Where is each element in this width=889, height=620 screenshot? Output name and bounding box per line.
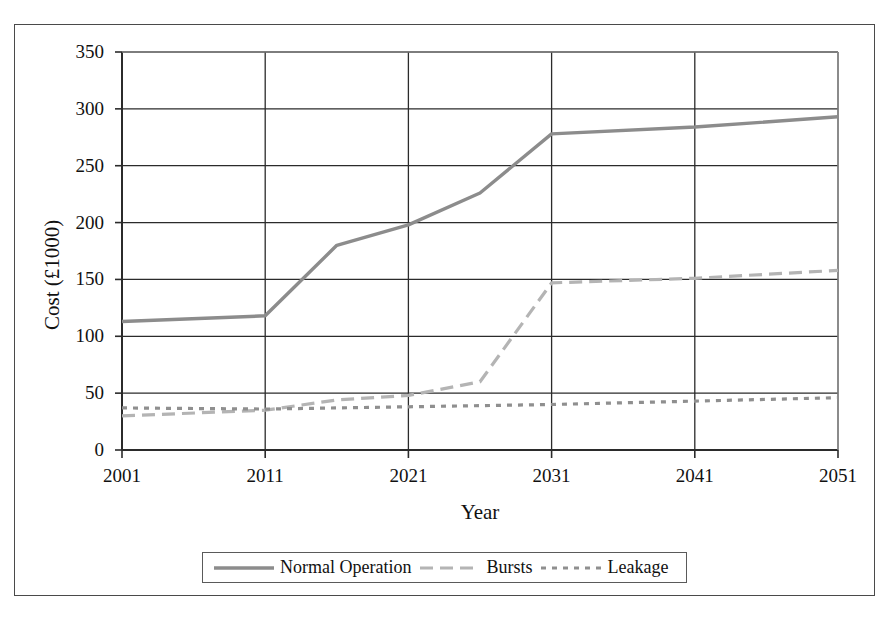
legend-label: Leakage: [607, 557, 668, 578]
x-tick-label: 2021: [368, 466, 448, 485]
x-tick-label: 2041: [655, 466, 735, 485]
legend-label: Normal Operation: [280, 557, 411, 578]
line-chart: [0, 0, 889, 620]
legend-entry: Leakage: [540, 557, 676, 578]
legend-entry: Bursts: [419, 557, 540, 578]
gridlines: [122, 52, 838, 450]
x-tick-label: 2011: [225, 466, 305, 485]
x-tick-label: 2031: [512, 466, 592, 485]
y-tick-label: 50: [44, 383, 104, 402]
y-tick-label: 350: [44, 42, 104, 61]
x-axis-title: Year: [36, 500, 889, 525]
axis-ticks: [115, 52, 838, 458]
series-line-normal-operation: [122, 117, 838, 322]
y-tick-label: 250: [44, 156, 104, 175]
legend-swatch-normal-operation: [213, 561, 275, 575]
chart-page: 350300250200150100500 200120112021203120…: [0, 0, 889, 620]
series-line-leakage: [122, 398, 838, 409]
y-tick-label: 300: [44, 99, 104, 118]
legend-swatch-leakage: [540, 561, 602, 575]
y-tick-label: 0: [44, 440, 104, 459]
legend-entry: Normal Operation: [213, 557, 419, 578]
legend-swatch-bursts: [419, 561, 481, 575]
legend-label: Bursts: [486, 557, 532, 578]
series-line-bursts: [122, 270, 838, 416]
data-series: [122, 117, 838, 416]
axis-lines: [122, 52, 838, 450]
x-tick-label: 2001: [82, 466, 162, 485]
x-tick-label: 2051: [798, 466, 878, 485]
y-axis-title: Cost (£1000): [40, 220, 65, 330]
chart-legend: Normal OperationBurstsLeakage: [202, 552, 687, 583]
